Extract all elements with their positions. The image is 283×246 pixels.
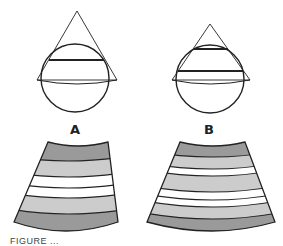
sphere-circle-a [41,44,109,112]
panel-label-b: B [204,122,214,137]
diagram-b-geometry [172,24,250,113]
cone-triangle-a [37,11,117,80]
fan-a [0,130,140,240]
figure-caption: FIGURE ... [10,236,59,246]
sphere-circle-b [176,45,244,113]
panel-label-a: A [70,122,80,137]
curved-plane-a [37,80,117,84]
curved-plane-b [172,80,250,84]
diagram-a-geometry [37,11,117,112]
